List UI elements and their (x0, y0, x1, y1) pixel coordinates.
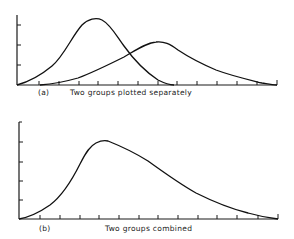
panel-a-label: (a) (38, 88, 49, 97)
panel-a: (a) Two groups plotted separately (17, 15, 277, 97)
panel-b: (b) Two groups combined (19, 122, 278, 233)
x-ticks-a (39, 80, 277, 85)
figure: (a) Two groups plotted separately (0, 0, 294, 239)
panel-b-label: (b) (39, 224, 51, 233)
curve-group-1 (17, 19, 174, 85)
panel-b-caption: Two groups combined (104, 224, 192, 233)
panel-a-caption: Two groups plotted separately (69, 88, 192, 97)
curve-group-2 (40, 42, 277, 85)
x-ticks-b (40, 214, 278, 219)
curve-combined (19, 141, 278, 219)
